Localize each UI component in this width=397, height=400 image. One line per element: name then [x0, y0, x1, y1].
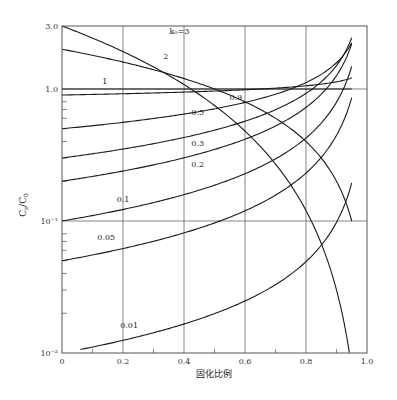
x-tick-label: 0.2: [117, 357, 130, 366]
curve-label: 0.5: [191, 108, 204, 117]
gridlines: [62, 26, 367, 353]
curve-label: 0.1: [117, 195, 130, 204]
curve-k0-0-2: [62, 44, 352, 181]
scheil-curves: [62, 26, 352, 353]
x-tick-labels: 00.20.40.60.81.0: [59, 357, 373, 366]
plot-frame: [62, 26, 367, 353]
curve-label: 2: [163, 52, 168, 61]
x-tick-label: 0.8: [300, 357, 313, 366]
x-axis-title: 固化比例: [196, 368, 232, 379]
curve-label: 0.05: [97, 233, 115, 242]
curve-label: 0.3: [191, 139, 204, 148]
curve-labels: k₀=3210.90.50.30.20.10.050.01: [97, 27, 242, 330]
y-tick-labels: 3.01.010⁻¹10⁻²: [40, 22, 58, 358]
y-tick-label: 1.0: [45, 85, 58, 94]
y-axis-title: Cs/C0: [18, 193, 29, 217]
x-tick-label: 1.0: [361, 357, 374, 366]
y-tick-label: 3.0: [45, 22, 58, 31]
curve-label: 0.2: [191, 160, 204, 169]
x-tick-label: 0: [59, 357, 64, 366]
x-tick-label: 0.6: [239, 357, 252, 366]
solute-distribution-chart: k₀=3210.90.50.30.20.10.050.01 00.20.40.6…: [0, 0, 397, 400]
curve-label: 0.01: [120, 321, 138, 330]
y-tick-label: 10⁻²: [40, 349, 58, 358]
curve-k0-2: [62, 49, 352, 221]
curve-label: k₀=3: [169, 27, 189, 36]
curve-label: 0.9: [229, 93, 242, 102]
curve-label: 1: [102, 77, 107, 86]
x-tick-label: 0.4: [178, 357, 191, 366]
y-tick-label: 10⁻¹: [40, 217, 58, 226]
curve-k0-0-3: [62, 38, 352, 158]
